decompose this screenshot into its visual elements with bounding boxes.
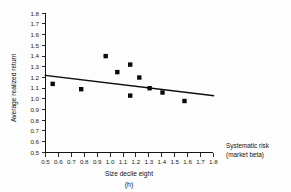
y-tick-label: 0.9: [30, 106, 39, 113]
x-tick-label: 0.8: [80, 158, 89, 165]
y-tick-label: 1.8: [30, 10, 39, 17]
panel-label: (h): [125, 181, 134, 189]
x-axis-title: Size decile eight: [105, 170, 153, 178]
x-tick-label: 1.8: [209, 158, 218, 165]
data-point-marker: [79, 87, 83, 91]
data-point-marker: [115, 70, 119, 74]
x-tick-label: 0.9: [93, 158, 102, 165]
chart-figure: 1.8 1.7 1.6 1.5 1.4 1.3 1.2 1.1 1.0 0.9 …: [0, 0, 291, 192]
y-tick-label: 1.2: [30, 74, 39, 81]
x-tick-label: 1.1: [119, 158, 128, 165]
annotation-line-1: Systematic risk: [226, 142, 270, 150]
y-tick-label: 0.7: [30, 127, 39, 134]
y-tick-label: 1.3: [30, 63, 39, 70]
x-tick-label: 0.5: [41, 158, 50, 165]
x-axis-ticks: 0.5 0.6 0.7 0.8 0.9 1.0 1.1 1.2 1.3 1.4 …: [41, 153, 218, 166]
y-tick-label: 1.6: [30, 31, 39, 38]
regression-fit-line: [46, 75, 214, 95]
data-point-marker: [147, 86, 151, 90]
x-tick-label: 1.0: [106, 158, 115, 165]
x-tick-label: 1.7: [196, 158, 205, 165]
x-tick-label: 0.7: [67, 158, 76, 165]
axis-lines: [45, 13, 213, 153]
scatter-plot-canvas: 1.8 1.7 1.6 1.5 1.4 1.3 1.2 1.1 1.0 0.9 …: [0, 0, 291, 192]
data-point-marker: [51, 82, 55, 86]
y-tick-label: 1.1: [30, 84, 39, 91]
data-point-marker: [128, 93, 132, 97]
y-axis-ticks: 1.8 1.7 1.6 1.5 1.4 1.3 1.2 1.1 1.0 0.9 …: [30, 10, 45, 156]
y-tick-label: 1.0: [30, 95, 39, 102]
y-tick-label: 0.6: [30, 138, 39, 145]
data-point-marker: [182, 99, 186, 103]
x-tick-label: 0.6: [54, 158, 63, 165]
annotation-line-2: (market beta): [226, 151, 264, 159]
y-tick-label: 0.8: [30, 117, 39, 124]
x-tick-label: 1.2: [132, 158, 141, 165]
y-tick-label: 1.4: [30, 52, 39, 59]
y-axis-title: Average realized return: [10, 53, 18, 122]
y-tick-label: 1.7: [30, 20, 39, 27]
data-point-marker: [104, 54, 108, 58]
x-tick-label: 1.5: [170, 158, 179, 165]
data-point-marker: [128, 62, 132, 66]
y-tick-label: 1.5: [30, 42, 39, 49]
x-tick-label: 1.4: [157, 158, 166, 165]
data-point-marker: [137, 75, 141, 79]
data-point-marker: [160, 90, 164, 94]
y-tick-label: 0.5: [30, 149, 39, 156]
x-tick-label: 1.3: [144, 158, 153, 165]
x-tick-label: 1.6: [183, 158, 192, 165]
systematic-risk-annotation: Systematic risk (market beta): [226, 142, 270, 159]
